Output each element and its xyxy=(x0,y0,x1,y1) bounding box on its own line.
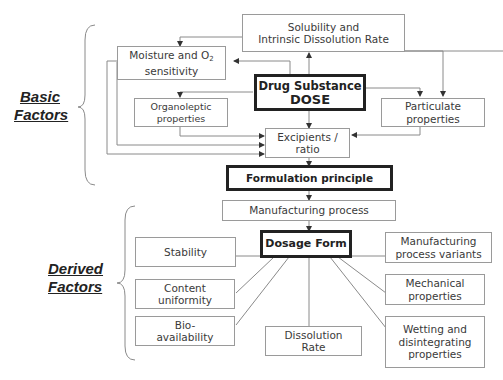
derived-factors-line2: Factors xyxy=(48,278,100,296)
mechanical-properties-node: Mechanicalproperties xyxy=(385,274,485,305)
dissolution-line2: Rate xyxy=(284,341,342,354)
particulate-node: Particulateproperties xyxy=(381,98,485,127)
drug-line2: DOSE xyxy=(258,93,361,107)
manufacturing-text: Manufacturing process xyxy=(249,204,369,217)
bioavailability-node: Bio-availability xyxy=(135,316,235,346)
stability-text: Stability xyxy=(164,246,207,259)
organoleptic-line1: Organoleptic xyxy=(150,101,211,113)
dosage-form-node: Dosage Form xyxy=(260,230,352,258)
mechanical-line2: properties xyxy=(405,290,464,303)
moisture-subscript: 2 xyxy=(209,55,213,63)
basic-factors-label: Basic Factors xyxy=(14,88,66,124)
bio-line1: Bio- xyxy=(156,319,213,332)
content-uniformity-node: Contentuniformity xyxy=(135,279,235,309)
particulate-line2: properties xyxy=(405,113,461,126)
manufacturing-process-node: Manufacturing process xyxy=(222,200,396,221)
wetting-line3: properties xyxy=(399,348,472,361)
derived-factors-label: Derived Factors xyxy=(48,260,100,296)
mechanical-line1: Mechanical xyxy=(405,277,464,290)
solubility-line1: Solubility and xyxy=(258,21,389,34)
dissolution-rate-node: DissolutionRate xyxy=(265,326,362,356)
drug-line1: Drug Substance xyxy=(258,79,361,93)
moisture-line1: Moisture and O xyxy=(129,49,209,61)
particulate-line1: Particulate xyxy=(405,100,461,113)
excipients-line1: Excipients / xyxy=(277,131,338,144)
process-variants-node: Manufacturingprocess variants xyxy=(385,232,492,263)
drug-substance-node: Drug SubstanceDOSE xyxy=(254,74,366,111)
bio-line2: availability xyxy=(156,331,213,344)
moisture-line2: sensitivity xyxy=(129,65,213,78)
moisture-node: Moisture and O2sensitivity xyxy=(117,46,226,80)
solubility-line2: Intrinsic Dissolution Rate xyxy=(258,33,389,46)
content-line1: Content xyxy=(158,282,212,295)
basic-factors-line1: Basic xyxy=(14,88,66,106)
basic-factors-line2: Factors xyxy=(14,106,66,124)
excipients-line2: ratio xyxy=(277,143,338,156)
excipients-node: Excipients /ratio xyxy=(265,128,350,158)
content-line2: uniformity xyxy=(158,294,212,307)
stability-node: Stability xyxy=(135,237,236,267)
organoleptic-line2: properties xyxy=(150,113,211,125)
formulation-text: Formulation principle xyxy=(246,172,373,185)
wetting-line1: Wetting and xyxy=(399,323,472,336)
derived-factors-line1: Derived xyxy=(48,260,100,278)
dissolution-line1: Dissolution xyxy=(284,329,342,342)
solubility-node: Solubility andIntrinsic Dissolution Rate xyxy=(242,14,405,52)
variants-line2: process variants xyxy=(395,248,481,261)
variants-line1: Manufacturing xyxy=(395,235,481,248)
wetting-node: Wetting anddisintegratingproperties xyxy=(385,316,485,368)
organoleptic-node: Organolepticproperties xyxy=(134,98,228,127)
wetting-line2: disintegrating xyxy=(399,336,472,349)
dosage-text: Dosage Form xyxy=(265,238,346,251)
formulation-principle-node: Formulation principle xyxy=(226,165,393,191)
